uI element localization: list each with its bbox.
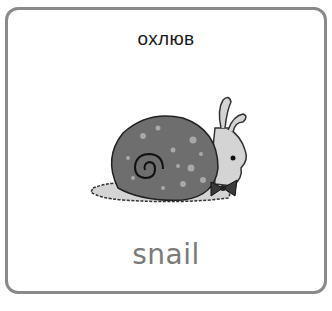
snail-icon: [83, 88, 258, 218]
flashcard: охлюв snail: [5, 7, 327, 294]
card-title: охлюв: [8, 28, 324, 50]
card-word: snail: [8, 238, 324, 271]
